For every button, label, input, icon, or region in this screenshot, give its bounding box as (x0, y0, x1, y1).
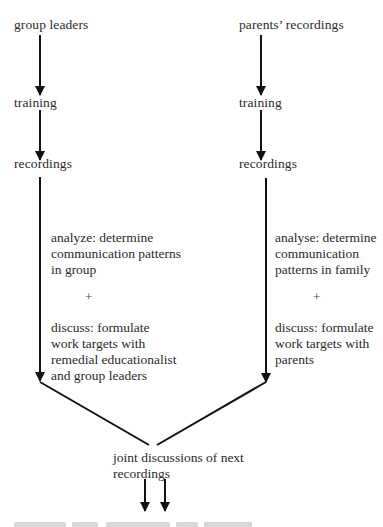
node-training-right: training (239, 95, 282, 111)
analyze-group-text: analyze: determine communication pattern… (51, 230, 181, 278)
node-joint-discussions: joint discussions of next recordings (113, 450, 244, 482)
node-group-leaders: group leaders (14, 17, 88, 33)
cropped-caption-fragment (14, 520, 264, 527)
plus-sign-right: + (313, 290, 320, 304)
node-recordings-right: recordings (239, 156, 297, 172)
discuss-group-text: discuss: formulate work targets with rem… (51, 320, 177, 384)
diagonal-right-to-merge (157, 382, 266, 445)
node-parents-recordings: parents’ recordings (239, 17, 344, 33)
diagonal-left-to-merge (40, 382, 149, 445)
analyse-family-text: analyse: determine communication pattern… (275, 230, 377, 278)
discuss-parents-text: discuss: formulate work targets with par… (275, 320, 374, 368)
node-training-left: training (14, 95, 57, 111)
plus-sign-left: + (85, 290, 92, 304)
node-recordings-left: recordings (14, 156, 72, 172)
